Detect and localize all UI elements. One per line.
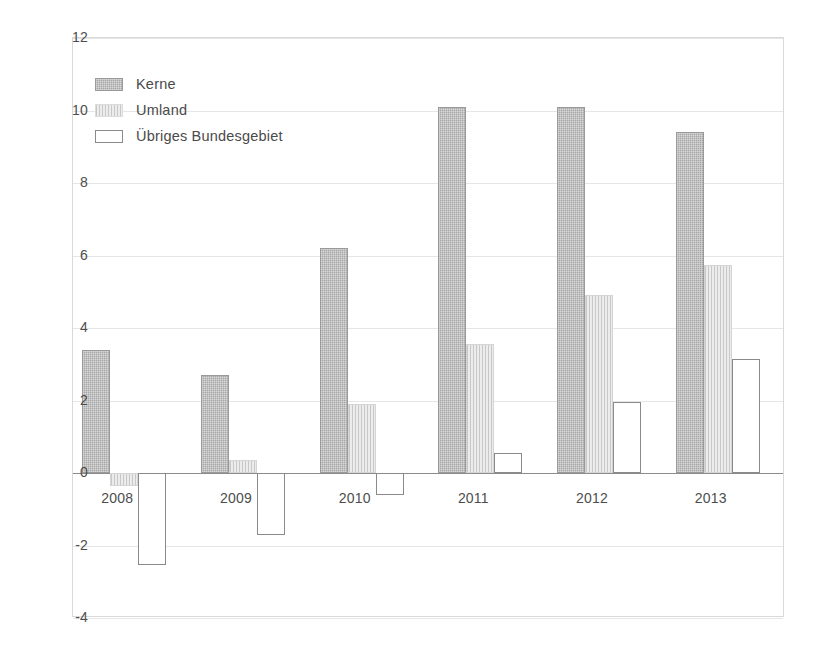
x-tick-label: 2012	[576, 490, 608, 506]
bar	[676, 132, 704, 473]
bar	[348, 404, 376, 473]
legend-label: Kerne	[136, 76, 176, 92]
bar	[613, 402, 641, 473]
bar	[732, 359, 760, 473]
x-tick-label: 2010	[339, 490, 371, 506]
bar	[138, 473, 166, 565]
bar	[557, 107, 585, 473]
y-tick-label: 4	[48, 319, 88, 335]
gridline	[73, 618, 783, 619]
x-tick-label: 2011	[458, 490, 489, 506]
x-tick-label: 2009	[220, 490, 252, 506]
legend-swatch-uebriges	[95, 130, 123, 143]
bar-chart: 121086420-2-4 200820092010201120122013 K…	[0, 0, 828, 653]
bar	[704, 265, 732, 473]
legend-label: Umland	[136, 102, 187, 118]
chart-legend: KerneUmlandÜbriges Bundesgebiet	[95, 71, 283, 149]
y-tick-label: 2	[48, 392, 88, 408]
y-tick-label: 6	[48, 247, 88, 263]
legend-label: Übriges Bundesgebiet	[136, 128, 283, 144]
gridline	[73, 546, 783, 547]
bar	[82, 350, 110, 473]
bar	[494, 453, 522, 473]
gridline	[73, 38, 783, 39]
y-tick-label: 8	[48, 174, 88, 190]
legend-swatch-umland	[95, 104, 123, 117]
y-tick-label: 0	[48, 464, 88, 480]
legend-item: Kerne	[95, 71, 283, 97]
bar	[320, 248, 348, 473]
y-tick-label: 12	[48, 29, 88, 45]
legend-item: Umland	[95, 97, 283, 123]
y-tick-label: 10	[48, 102, 88, 118]
legend-item: Übriges Bundesgebiet	[95, 123, 283, 149]
y-tick-label: -2	[48, 537, 88, 553]
zero-axis-line	[73, 473, 783, 474]
bar	[229, 460, 257, 473]
x-tick-label: 2008	[101, 490, 133, 506]
x-tick-label: 2013	[695, 490, 727, 506]
bar	[438, 107, 466, 473]
legend-swatch-kerne	[95, 78, 123, 91]
bar	[110, 473, 138, 486]
bar	[585, 295, 613, 473]
bar	[257, 473, 285, 535]
bar	[466, 344, 494, 473]
bar	[201, 375, 229, 473]
y-tick-label: -4	[48, 609, 88, 625]
bar	[376, 473, 404, 495]
